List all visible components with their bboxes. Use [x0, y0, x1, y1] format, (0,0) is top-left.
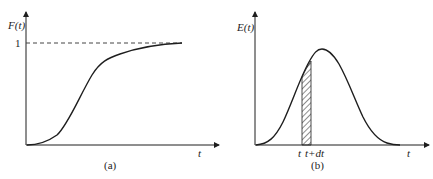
y-axis-label-b: E(t) — [236, 21, 254, 34]
y-tick-one: 1 — [15, 37, 21, 49]
strip-right-label: t+dt — [305, 147, 325, 159]
strip-left-label: t — [298, 147, 302, 159]
panel-b: E(t) t t+dt t (b) — [236, 12, 429, 172]
rtd-bell-curve — [256, 49, 400, 145]
x-axis-label-b: t — [407, 147, 411, 159]
caption-b: (b) — [311, 159, 324, 172]
panel-a: F(t) 1 t (a) — [7, 12, 219, 172]
caption-a: (a) — [104, 159, 117, 172]
diagram-canvas: F(t) 1 t (a) E(t) t t+dt t (b) — [0, 0, 433, 179]
x-axis-label-a: t — [198, 147, 202, 159]
cdf-curve — [27, 43, 182, 145]
y-axis-label-a: F(t) — [7, 19, 25, 32]
